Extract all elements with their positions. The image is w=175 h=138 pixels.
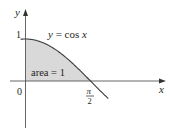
- y-tick-label: 1: [16, 29, 21, 40]
- function-label-eq: = cos: [53, 28, 82, 40]
- function-label-x: x: [81, 28, 87, 40]
- y-axis-arrow-icon: [23, 9, 28, 16]
- cosine-area-diagram: y x 0 1 π 2 y = cos x area = 1: [0, 0, 175, 138]
- origin-label: 0: [17, 86, 22, 97]
- function-label: y = cos x: [47, 28, 87, 40]
- y-axis-label: y: [14, 6, 20, 18]
- x-tick-label-numerator: π: [87, 86, 92, 96]
- area-label: area = 1: [31, 67, 65, 78]
- x-axis-label: x: [158, 83, 164, 95]
- x-tick-label-denominator: 2: [88, 96, 92, 106]
